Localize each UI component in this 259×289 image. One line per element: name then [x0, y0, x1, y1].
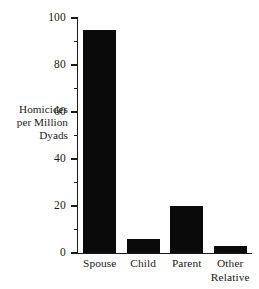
y-axis-tick-label: 100 — [22, 12, 66, 24]
bar-chart: 020406080100 Homicidesper MillionDyads S… — [0, 0, 259, 289]
y-axis-title: Homicidesper MillionDyads — [2, 103, 68, 143]
plot-area — [78, 18, 252, 253]
y-axis-major-tick — [71, 205, 78, 206]
y-axis-major-tick — [71, 17, 78, 18]
y-axis-title-line: Homicides — [2, 103, 68, 116]
y-axis-major-tick — [71, 111, 78, 112]
y-axis-major-tick — [71, 64, 78, 65]
bar — [170, 206, 203, 253]
bar — [83, 30, 116, 253]
y-axis-title-line: per Million — [2, 116, 68, 129]
x-axis-tick-label-line: Other — [203, 257, 259, 271]
x-axis-tick-label-line: Relative — [203, 271, 259, 285]
bar — [214, 246, 247, 253]
y-axis-tick-label: 20 — [22, 200, 66, 212]
y-axis-major-tick — [71, 158, 78, 159]
x-axis-tick-label: OtherRelative — [203, 257, 259, 284]
y-axis-tick-label: 80 — [22, 59, 66, 71]
y-axis-major-tick — [71, 252, 78, 253]
y-axis-title-line: Dyads — [2, 129, 68, 142]
y-axis-tick-label: 0 — [22, 247, 66, 259]
y-axis-tick-label: 40 — [22, 153, 66, 165]
bar — [127, 239, 160, 253]
